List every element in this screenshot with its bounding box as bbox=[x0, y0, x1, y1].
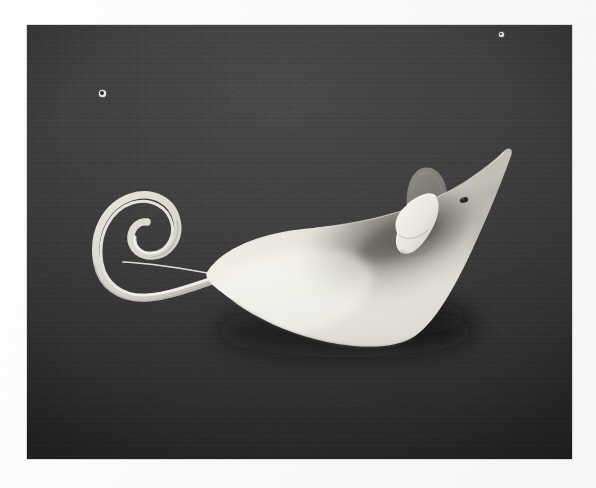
paper-mouse-photo bbox=[27, 25, 572, 459]
mouse-tail bbox=[94, 195, 223, 301]
mouse-ear-front bbox=[395, 194, 438, 255]
dust-spot-core bbox=[100, 91, 104, 95]
dust-spot-upper-left bbox=[99, 90, 106, 97]
page-root: white paper cone formed into a mouse wit… bbox=[0, 0, 596, 488]
dust-spot-upper-right bbox=[499, 32, 504, 37]
dust-spot-core bbox=[500, 33, 502, 35]
paper-mouse-sculpture bbox=[27, 25, 572, 459]
